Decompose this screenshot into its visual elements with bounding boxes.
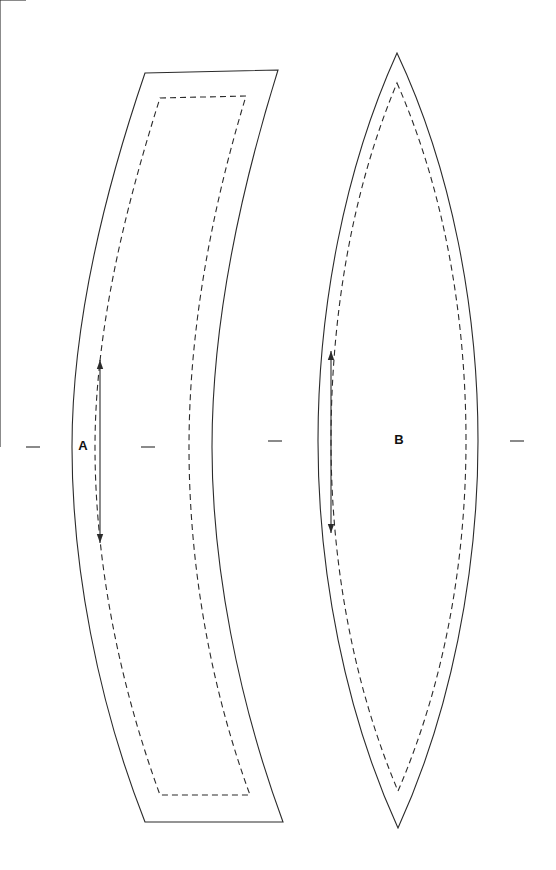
- cut-line-a: [72, 70, 283, 822]
- seam-line-a: [95, 96, 250, 795]
- piece-label-b: B: [394, 432, 403, 447]
- grainline-arrowhead-bottom-a: [97, 534, 103, 543]
- pattern-piece-a[interactable]: A: [0, 0, 283, 822]
- grainline-arrowhead-top-a: [97, 360, 103, 369]
- pattern-sheet: A B: [0, 0, 556, 870]
- piece-label-a: A: [78, 438, 88, 453]
- grainline-arrowhead-bottom-b: [328, 524, 334, 533]
- pattern-drawing-canvas: A B: [0, 0, 556, 870]
- pattern-piece-b[interactable]: B: [268, 53, 524, 828]
- grainline-arrowhead-top-b: [328, 351, 334, 360]
